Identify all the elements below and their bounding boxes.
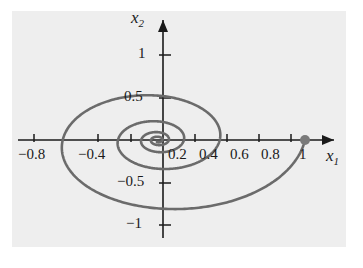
x-axis-tick-label: 0.8 bbox=[261, 146, 280, 163]
x-axis-arrow bbox=[322, 135, 334, 145]
x-axis bbox=[18, 135, 334, 145]
phase-portrait-figure: x2 x1 −0.8−0.40.20.40.60.8110.5−0.5−1 bbox=[0, 0, 363, 268]
x-axis-tick-label: 0.4 bbox=[199, 146, 218, 163]
y-axis-label: x2 bbox=[131, 8, 144, 29]
y-axis bbox=[158, 20, 168, 238]
y-axis-arrow bbox=[158, 20, 168, 32]
plot-canvas bbox=[0, 0, 363, 268]
x-axis-tick-label: −0.4 bbox=[78, 146, 105, 163]
y-axis-tick-label: −0.5 bbox=[117, 173, 144, 190]
x-axis-label: x1 bbox=[326, 146, 339, 167]
x-axis-tick-label: 0.2 bbox=[168, 146, 187, 163]
y-axis-tick-label: 1 bbox=[138, 45, 146, 62]
y-axis-tick-label: −1 bbox=[126, 215, 142, 232]
x-axis-tick-label: −0.8 bbox=[18, 146, 45, 163]
x-axis-tick-label: 0.6 bbox=[230, 146, 249, 163]
initial-condition-marker bbox=[300, 135, 310, 145]
x-axis-tick-label: 1 bbox=[299, 146, 307, 163]
y-axis-tick-label: 0.5 bbox=[124, 88, 143, 105]
